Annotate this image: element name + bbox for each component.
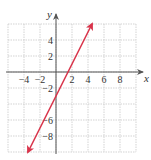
y-tick-label: −2 xyxy=(42,83,53,94)
coordinate-plane-chart: xy −4−2246842−2−6−8 xyxy=(0,0,151,160)
chart-svg: xy −4−2246842−2−6−8 xyxy=(0,0,151,160)
y-axis-label: y xyxy=(46,8,52,20)
grid-lines xyxy=(8,24,136,152)
x-tick-label: 8 xyxy=(118,74,123,85)
x-tick-label: 4 xyxy=(86,74,91,85)
y-tick-label: 2 xyxy=(48,51,53,62)
y-tick-label: −8 xyxy=(42,131,53,142)
x-tick-label: −4 xyxy=(19,74,30,85)
x-tick-label: 6 xyxy=(102,74,107,85)
data-series xyxy=(28,24,92,152)
tick-labels: −4−2246842−2−6−8 xyxy=(19,35,123,142)
line-series xyxy=(28,24,92,152)
x-axis-label: x xyxy=(143,72,149,84)
x-tick-label: 2 xyxy=(70,74,75,85)
y-tick-label: 4 xyxy=(48,35,53,46)
